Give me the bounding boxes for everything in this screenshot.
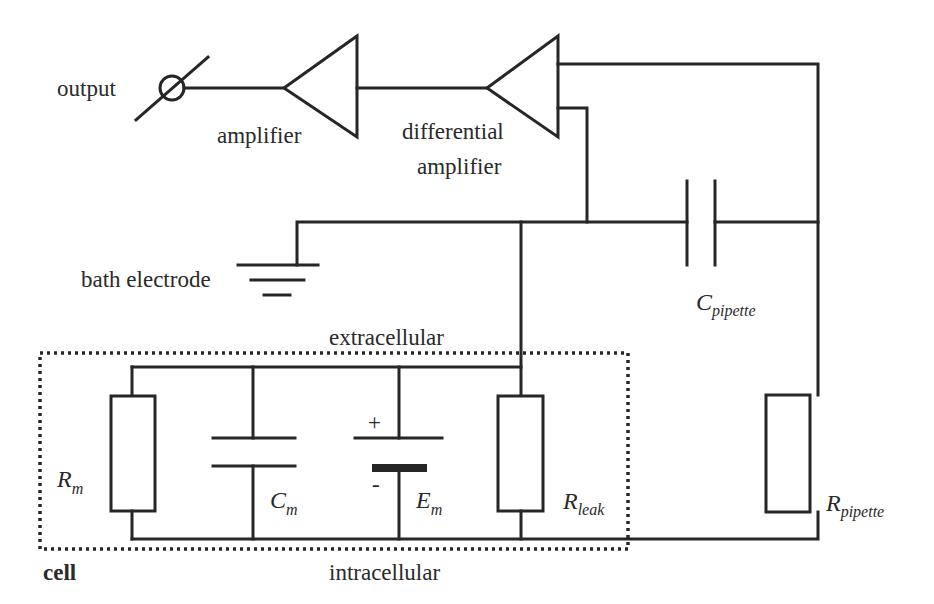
circuit-diagram: output amplifier differential amplifier … xyxy=(0,0,934,604)
amplifier-triangle xyxy=(284,36,357,137)
differential-amplifier-label-line1: differential xyxy=(402,119,504,144)
output-label: output xyxy=(57,76,116,101)
intracellular-label: intracellular xyxy=(329,560,440,585)
wire-bath-line xyxy=(297,222,687,265)
r-pipette-label: Rpipette xyxy=(825,490,884,521)
c-m-label: Cm xyxy=(270,487,298,518)
ground-icon xyxy=(238,265,318,295)
bath-electrode-label: bath electrode xyxy=(81,267,211,292)
differential-amplifier-label-line2: amplifier xyxy=(417,154,502,179)
wire-intracellular-rail xyxy=(132,512,818,539)
extracellular-label: extracellular xyxy=(329,325,444,350)
cell-label: cell xyxy=(43,560,76,585)
battery-plus-sign: + xyxy=(368,410,381,435)
wire-diffamp-bath xyxy=(558,108,587,222)
r-leak-resistor xyxy=(498,396,543,511)
r-m-label: Rm xyxy=(56,466,83,497)
c-pipette-label: Cpipette xyxy=(696,289,756,320)
c-pipette-capacitor xyxy=(687,181,715,265)
r-m-resistor xyxy=(111,396,155,511)
battery-minus-sign: - xyxy=(372,472,380,497)
amplifier-label: amplifier xyxy=(217,123,302,148)
r-pipette-resistor xyxy=(766,395,810,512)
e-m-label: Em xyxy=(415,487,442,518)
r-leak-label: Rleak xyxy=(562,488,605,518)
c-m-capacitor xyxy=(213,367,295,539)
e-m-battery xyxy=(355,367,442,539)
